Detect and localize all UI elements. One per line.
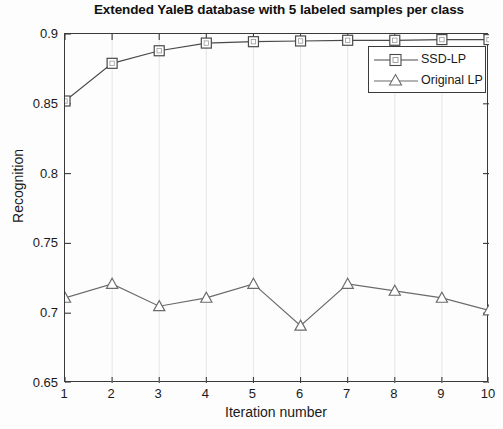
legend-item-ssd-lp: SSD-LP xyxy=(369,49,487,71)
chart-title: Extended YaleB database with 5 labeled s… xyxy=(64,2,494,17)
y-tick-label: 0.9 xyxy=(4,26,58,41)
chart-legend: SSD-LP Original LP xyxy=(368,46,486,93)
x-tick-label: 8 xyxy=(374,386,414,401)
x-tick-label: 2 xyxy=(91,386,131,401)
y-tick-label: 0.7 xyxy=(4,305,58,320)
y-axis-label: Recognition xyxy=(10,106,26,266)
legend-marker-triangle-icon xyxy=(374,70,418,92)
x-tick-label: 9 xyxy=(421,386,461,401)
x-tick-label: 6 xyxy=(280,386,320,401)
legend-label-ssd-lp: SSD-LP xyxy=(421,52,466,66)
x-axis-label: Iteration number xyxy=(64,404,488,420)
x-tick-label: 4 xyxy=(185,386,225,401)
legend-label-original-lp: Original LP xyxy=(421,73,483,87)
x-tick-label: 1 xyxy=(44,386,84,401)
legend-marker-square-icon xyxy=(374,49,418,71)
x-tick-label: 7 xyxy=(327,386,367,401)
chart-figure: Extended YaleB database with 5 labeled s… xyxy=(0,0,503,429)
x-tick-label: 3 xyxy=(138,386,178,401)
x-tick-label: 5 xyxy=(232,386,272,401)
y-axis-tick-labels: 0.650.70.750.80.850.9 xyxy=(0,0,58,429)
x-tick-label: 10 xyxy=(468,386,503,401)
legend-item-original-lp: Original LP xyxy=(369,70,487,92)
